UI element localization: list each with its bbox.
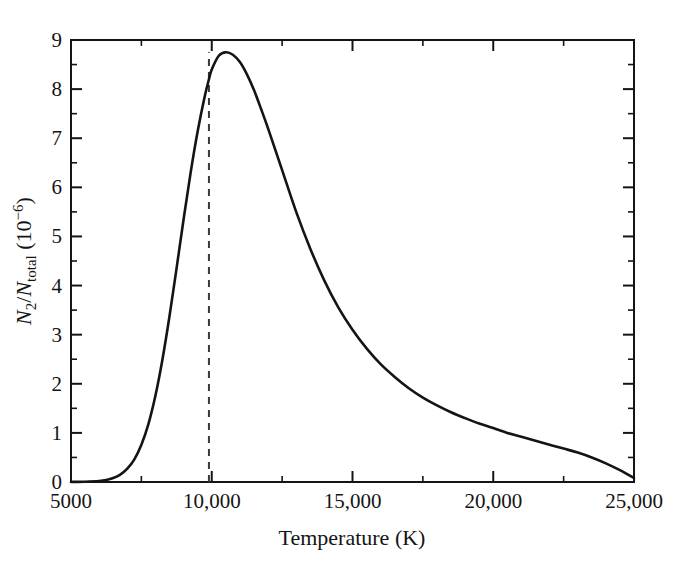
x-axis-tick-labels: 500010,00015,00020,00025,000 bbox=[50, 489, 663, 513]
x-axis-ticks bbox=[71, 40, 634, 482]
x-tick-label: 15,000 bbox=[324, 489, 382, 513]
y-tick-label: 8 bbox=[52, 77, 63, 101]
y-title-units-close: ) bbox=[11, 197, 36, 204]
y-tick-label: 9 bbox=[52, 28, 63, 52]
x-tick-label: 25,000 bbox=[605, 489, 663, 513]
svg-text:N2/Ntotal (10−6): N2/Ntotal (10−6) bbox=[10, 197, 39, 326]
data-layer bbox=[71, 52, 634, 482]
y-title-denominator: N bbox=[11, 281, 36, 298]
excitation-fraction-curve bbox=[71, 52, 634, 482]
y-axis-title: N2/Ntotal (10−6) bbox=[10, 197, 39, 326]
y-title-units-exponent: −6 bbox=[10, 204, 26, 220]
y-tick-label: 5 bbox=[52, 224, 63, 248]
x-tick-label: 20,000 bbox=[464, 489, 522, 513]
figure-container: 500010,00015,00020,00025,000 0123456789 … bbox=[0, 0, 687, 568]
y-tick-label: 2 bbox=[52, 372, 63, 396]
x-axis-title: Temperature (K) bbox=[279, 525, 426, 550]
axes-frame bbox=[71, 40, 634, 482]
y-tick-label: 0 bbox=[52, 470, 63, 494]
y-title-units-open: (10 bbox=[11, 220, 36, 255]
y-tick-label: 7 bbox=[52, 126, 63, 150]
y-tick-label: 3 bbox=[52, 323, 63, 347]
y-title-numerator-sub: 2 bbox=[23, 303, 39, 311]
y-axis-tick-labels: 0123456789 bbox=[52, 28, 63, 494]
x-tick-label: 10,000 bbox=[183, 489, 241, 513]
y-tick-label: 6 bbox=[52, 175, 63, 199]
y-title-numerator: N bbox=[11, 309, 36, 326]
y-tick-label: 4 bbox=[52, 274, 63, 298]
plot-frame bbox=[71, 40, 634, 482]
y-tick-label: 1 bbox=[52, 421, 63, 445]
y-axis-ticks bbox=[71, 40, 634, 482]
plot-canvas: 500010,00015,00020,00025,000 0123456789 … bbox=[0, 0, 687, 568]
y-title-denominator-sub: total bbox=[23, 255, 39, 282]
